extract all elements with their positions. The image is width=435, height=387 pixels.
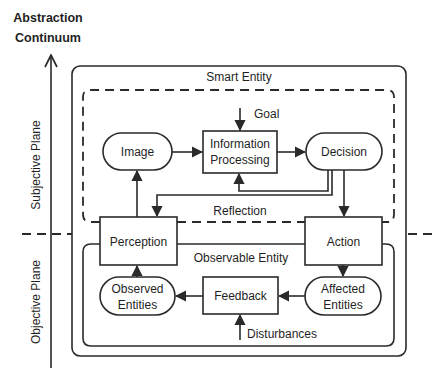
node-decision-label: Decision <box>321 145 367 159</box>
node-decision: Decision <box>306 133 382 170</box>
node-affected-entities: Affected Entities <box>305 277 381 315</box>
diagram-canvas: Abstraction Continuum Subjective Plane O… <box>0 0 435 387</box>
node-feedback: Feedback <box>203 277 278 314</box>
node-observed-line2: Entities <box>118 298 157 312</box>
node-affected-line2: Entities <box>323 298 362 312</box>
node-observed-entities: Observed Entities <box>100 277 175 315</box>
node-affected-line1: Affected <box>321 282 365 296</box>
node-perception: Perception <box>100 217 177 265</box>
node-feedback-label: Feedback <box>214 289 268 303</box>
node-image: Image <box>103 133 172 170</box>
smart-entity-label: Smart Entity <box>206 70 271 84</box>
goal-label: Goal <box>254 107 279 121</box>
node-observed-line1: Observed <box>111 282 163 296</box>
node-action: Action <box>305 217 382 265</box>
axis-title-line1: Abstraction <box>13 11 82 25</box>
node-action-label: Action <box>327 235 360 249</box>
axis-title-line2: Continuum <box>15 31 81 45</box>
observable-entity-label: Observable Entity <box>194 251 289 265</box>
objective-plane-label: Objective Plane <box>29 260 43 344</box>
disturbances-label: Disturbances <box>247 327 317 341</box>
subjective-plane-label: Subjective Plane <box>29 120 43 210</box>
node-perception-label: Perception <box>110 235 167 249</box>
node-information-processing: Information Processing <box>203 131 277 173</box>
node-info-processing-line2: Processing <box>210 153 269 167</box>
node-image-label: Image <box>121 145 155 159</box>
reflection-label: Reflection <box>213 204 266 218</box>
node-info-processing-line1: Information <box>210 137 270 151</box>
